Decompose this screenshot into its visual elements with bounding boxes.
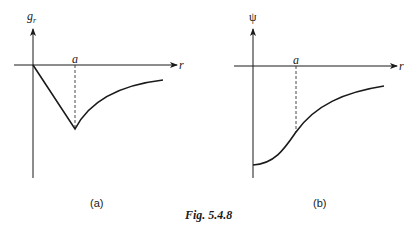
panel-b-y-label: ψ xyxy=(249,11,257,23)
panel-a xyxy=(14,29,177,178)
panel-b xyxy=(234,29,397,178)
figure-canvas xyxy=(0,0,414,227)
panel-a-x-label: r xyxy=(179,59,184,71)
panel-b-caption: (b) xyxy=(313,198,326,209)
panel-a-marker-label: a xyxy=(72,53,78,65)
panel-b-curve xyxy=(253,86,384,165)
panel-a-y-label: gr xyxy=(27,10,36,25)
y-label-subscript: r xyxy=(33,16,36,25)
panel-a-caption: (a) xyxy=(90,198,103,209)
figure-caption: Fig. 5.4.8 xyxy=(185,209,232,221)
panel-a-curve xyxy=(33,65,163,129)
panel-b-marker-label: a xyxy=(293,54,299,66)
panel-b-x-label: r xyxy=(399,60,404,72)
